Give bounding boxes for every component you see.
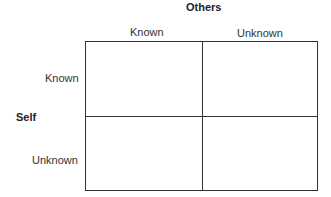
quadrant-unknown-unknown (203, 117, 317, 190)
quadrant-unknown-known (86, 117, 202, 190)
quadrant-grid (85, 41, 318, 191)
row-header-known: Known (45, 72, 79, 84)
column-header-known: Known (130, 26, 164, 38)
row-header-unknown: Unknown (32, 154, 78, 166)
quadrant-known-unknown (203, 42, 317, 116)
quadrant-known-known (86, 42, 202, 116)
self-axis-title: Self (16, 111, 36, 123)
others-axis-title: Others (186, 1, 221, 13)
column-header-unknown: Unknown (237, 27, 283, 39)
